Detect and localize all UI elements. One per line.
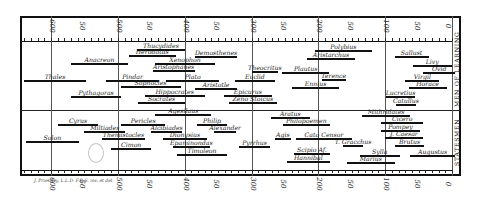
lifespan-bar bbox=[177, 154, 226, 156]
minor-tick bbox=[392, 38, 393, 41]
person-name: Socrates bbox=[148, 95, 175, 102]
minor-tick bbox=[78, 170, 79, 173]
minor-tick bbox=[372, 38, 373, 41]
library-stamp bbox=[88, 143, 104, 163]
lifespan-bar bbox=[138, 102, 185, 104]
tick-label: 100 bbox=[382, 177, 390, 190]
minor-tick bbox=[392, 170, 393, 173]
tick-label: 500 bbox=[115, 19, 123, 32]
minor-tick bbox=[345, 170, 346, 173]
tick-label: 50 bbox=[413, 180, 421, 189]
minor-tick bbox=[191, 38, 192, 41]
person-name: Aristotle bbox=[203, 81, 230, 88]
person-name: Herodotus bbox=[136, 48, 169, 55]
minor-tick bbox=[51, 38, 52, 41]
person-name: Scipio Af. bbox=[297, 146, 327, 153]
minor-tick bbox=[191, 170, 192, 173]
person-name: Sophocles bbox=[135, 79, 167, 86]
minor-tick bbox=[178, 170, 179, 173]
tick-label: 500 bbox=[115, 177, 123, 190]
minor-tick bbox=[432, 170, 433, 173]
minor-tick bbox=[178, 38, 179, 41]
minor-tick bbox=[378, 170, 379, 173]
person-name: Augustus bbox=[418, 148, 447, 155]
minor-tick bbox=[399, 170, 400, 173]
minor-tick bbox=[318, 38, 319, 41]
lifespan-bar bbox=[347, 162, 394, 164]
person-name: Virgil bbox=[414, 73, 431, 80]
minor-tick bbox=[225, 38, 226, 41]
minor-tick bbox=[318, 170, 319, 173]
minor-tick bbox=[352, 38, 353, 41]
lifespan-bar bbox=[239, 146, 270, 148]
lifespan-bar bbox=[102, 138, 145, 140]
minor-tick bbox=[385, 38, 386, 41]
minor-tick bbox=[445, 170, 446, 173]
person-name: Themistocles bbox=[103, 131, 144, 138]
minor-tick bbox=[439, 38, 440, 41]
tick-label: 0 bbox=[444, 24, 452, 28]
minor-tick bbox=[98, 170, 99, 173]
minor-tick bbox=[238, 170, 239, 173]
minor-tick bbox=[252, 38, 253, 41]
lifespan-bar bbox=[24, 80, 85, 82]
minor-tick bbox=[91, 170, 92, 173]
minor-tick bbox=[332, 170, 333, 173]
minor-tick bbox=[432, 38, 433, 41]
tick-label: 300 bbox=[248, 177, 256, 190]
person-name: Hippocrates bbox=[155, 88, 193, 95]
minor-tick bbox=[425, 38, 426, 41]
person-name: Aristophanes bbox=[153, 63, 194, 70]
person-name: Sylla bbox=[372, 148, 387, 155]
person-name: Hannibal bbox=[294, 154, 323, 161]
minor-tick bbox=[412, 170, 413, 173]
minor-tick bbox=[64, 170, 65, 173]
tick-label: 300 bbox=[248, 19, 256, 32]
person-name: Mithridates bbox=[368, 108, 405, 115]
minor-tick bbox=[325, 38, 326, 41]
minor-tick bbox=[151, 38, 152, 41]
tick-label: 50 bbox=[346, 180, 354, 189]
minor-tick bbox=[78, 38, 79, 41]
minor-tick bbox=[205, 170, 206, 173]
minor-tick bbox=[298, 38, 299, 41]
minor-tick bbox=[58, 170, 59, 173]
minor-tick bbox=[138, 38, 139, 41]
side-label-men-of-learning: Men of Learning bbox=[453, 31, 460, 107]
minor-tick bbox=[305, 38, 306, 41]
minor-tick bbox=[419, 170, 420, 173]
person-name: Plautus bbox=[294, 65, 317, 72]
minor-tick bbox=[211, 170, 212, 173]
person-name: Polybius bbox=[330, 43, 356, 50]
minor-tick bbox=[245, 170, 246, 173]
person-name: Aristarchus bbox=[313, 51, 349, 58]
minor-tick bbox=[185, 170, 186, 173]
tick-label: 200 bbox=[315, 177, 323, 190]
tick-label: 50 bbox=[413, 22, 421, 31]
person-name: Alcibiades bbox=[150, 124, 182, 131]
person-name: Demosthenes bbox=[195, 49, 237, 56]
person-name: Anacreon bbox=[84, 56, 114, 63]
lifespan-bar bbox=[396, 104, 416, 106]
minor-tick bbox=[38, 170, 39, 173]
minor-tick bbox=[305, 170, 306, 173]
person-name: Aratus bbox=[280, 110, 301, 117]
minor-tick bbox=[278, 170, 279, 173]
person-name: Alexander bbox=[209, 124, 241, 131]
minor-tick bbox=[285, 38, 286, 41]
minor-tick bbox=[38, 38, 39, 41]
tick-label: 50 bbox=[279, 180, 287, 189]
minor-tick bbox=[265, 170, 266, 173]
person-name: Cicero bbox=[392, 115, 413, 122]
person-name: Zeno Stoicus bbox=[232, 95, 273, 102]
minor-tick bbox=[405, 38, 406, 41]
person-name: Cyrus bbox=[69, 117, 87, 124]
minor-tick bbox=[138, 170, 139, 173]
person-name: Epicurus bbox=[234, 88, 262, 95]
tick-label: 200 bbox=[315, 19, 323, 32]
minor-tick bbox=[198, 38, 199, 41]
minor-tick bbox=[71, 38, 72, 41]
minor-tick bbox=[298, 170, 299, 173]
lifespan-bar bbox=[229, 102, 277, 104]
person-name: Philip bbox=[203, 117, 221, 124]
